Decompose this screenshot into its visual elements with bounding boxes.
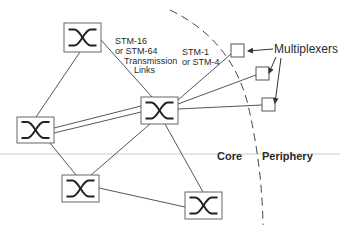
link-bottomleft-bottomright xyxy=(99,188,185,207)
access-link-label-1: STM-1 xyxy=(182,47,209,57)
link-left-center-b xyxy=(54,112,141,133)
link-left-center-a xyxy=(54,106,141,128)
multiplexers-label: Multiplexers xyxy=(274,42,338,56)
link-center-mux3 xyxy=(178,105,262,109)
periphery-label: Periphery xyxy=(262,150,314,162)
multiplexer-2 xyxy=(256,67,269,80)
core-link-label-2: or STM-64 xyxy=(115,46,158,56)
core-link-label-1: STM-16 xyxy=(115,36,147,46)
multiplexer-1 xyxy=(231,44,244,57)
switch-top xyxy=(64,23,101,52)
access-link-label-2: or STM-4 xyxy=(182,57,220,67)
switch-bottom-left xyxy=(62,175,99,202)
switch-left xyxy=(17,117,54,143)
link-left-bottomleft xyxy=(50,143,76,175)
link-center-bottomright xyxy=(165,124,203,192)
arrow-icon xyxy=(248,49,273,51)
core-label: Core xyxy=(217,150,242,162)
link-center-bottomleft xyxy=(91,124,150,175)
multiplexer-3 xyxy=(262,98,275,111)
arrow-icon xyxy=(275,58,281,103)
core-link-label-4: Links xyxy=(134,65,156,75)
network-diagram: STM-16 or STM-64 Transmission Links STM-… xyxy=(0,0,340,233)
switch-center xyxy=(141,97,178,124)
link-top-left xyxy=(36,52,80,117)
arrow-icon xyxy=(269,57,276,73)
switch-bottom-right xyxy=(185,192,222,219)
